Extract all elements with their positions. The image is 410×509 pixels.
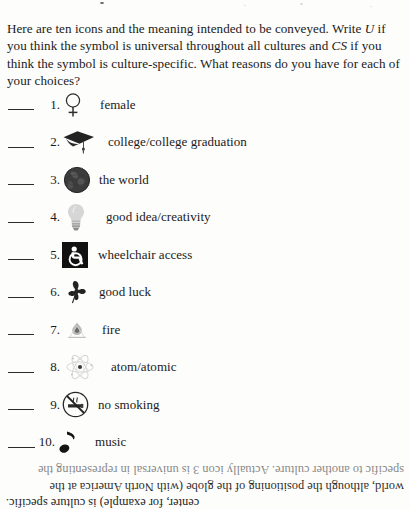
scan-speck [100, 2, 104, 4]
female-symbol-icon [60, 88, 100, 122]
item-label: good idea/creativity [106, 209, 211, 225]
list-item: 4. good idea/creativity [0, 199, 410, 237]
upside-down-footnote: center, for example) is culture specific… [0, 462, 410, 509]
intro-paragraph: Here are ten icons and the meaning inten… [7, 20, 403, 89]
item-label: fire [102, 322, 120, 338]
footnote-line-1: specific to another culture. Actually ic… [6, 462, 404, 478]
answer-blank-7[interactable] [8, 324, 34, 335]
item-label: female [100, 97, 136, 113]
item-label: no smoking [98, 397, 160, 413]
list-item: 9. no smoking [0, 386, 410, 424]
list-item: 7. fire [0, 311, 410, 349]
answer-blank-1[interactable] [8, 99, 34, 110]
answer-blank-5[interactable] [8, 249, 34, 260]
item-number: 1. [41, 97, 60, 113]
item-label: wheelchair access [98, 247, 192, 263]
footnote-line-3: center, for example) is culture specific… [6, 495, 404, 509]
icon-list: 1. female 2. [0, 86, 410, 461]
item-number: 7. [41, 322, 60, 338]
document-page: Here are ten icons and the meaning inten… [0, 0, 410, 509]
scan-speck [244, 5, 246, 6]
answer-blank-10[interactable] [8, 437, 35, 448]
item-number: 6. [41, 284, 60, 300]
footnote-line-2: world, although the positioning of the g… [6, 478, 404, 494]
no-smoking-icon [58, 388, 98, 422]
item-number: 4. [41, 209, 60, 225]
item-label: college/college graduation [108, 134, 247, 150]
footnote-text-block: center, for example) is culture specific… [0, 462, 410, 509]
item-number: 8. [41, 359, 60, 375]
answer-blank-3[interactable] [8, 174, 34, 185]
item-number: 10. [36, 434, 55, 450]
music-note-icon [55, 425, 95, 459]
list-item: 8. atom/a [0, 349, 410, 387]
intro-emphasis-cs: CS [332, 38, 347, 53]
item-label: the world [99, 172, 149, 188]
intro-emphasis-u: U [365, 21, 375, 36]
answer-blank-2[interactable] [8, 137, 34, 148]
answer-blank-4[interactable] [8, 212, 34, 223]
scan-speck [370, 6, 372, 7]
item-number: 3. [41, 172, 60, 188]
globe-icon [59, 163, 99, 197]
item-label: music [95, 434, 126, 450]
answer-blank-6[interactable] [8, 287, 34, 298]
atom-icon [61, 350, 111, 384]
wheelchair-access-icon [58, 238, 98, 272]
item-label: atom/atomic [111, 359, 177, 375]
list-item: 3. the world [0, 161, 410, 199]
light-bulb-icon [62, 200, 102, 234]
list-item: 10. music [0, 424, 410, 462]
list-item: 5. wheelchair access [0, 236, 410, 274]
list-item: 6. good luck [0, 274, 410, 312]
answer-blank-8[interactable] [8, 362, 34, 373]
list-item: 1. female [0, 86, 410, 124]
list-item: 2. college/college graduation [0, 124, 410, 162]
four-leaf-clover-icon [59, 275, 99, 309]
graduation-cap-icon [58, 125, 108, 159]
scan-speck [300, 3, 303, 5]
flame-icon [62, 313, 102, 347]
answer-blank-9[interactable] [8, 399, 34, 410]
item-label: good luck [99, 284, 151, 300]
intro-text-part-1: Here are ten icons and the meaning inten… [7, 21, 365, 36]
